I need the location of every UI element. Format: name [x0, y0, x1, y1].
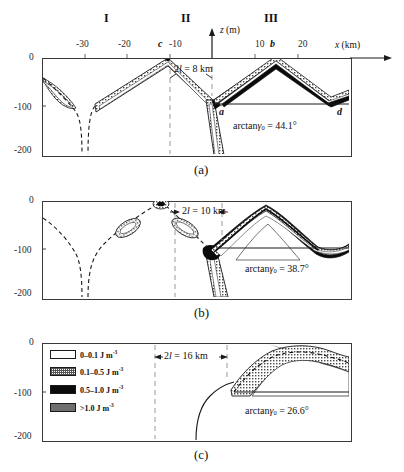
legend-exp-0: -3: [113, 349, 118, 355]
panel-c-angle-pre: arctan: [245, 405, 269, 416]
legend-label-1: 0.1–0.5 J m-3: [80, 366, 123, 377]
legend-item-1: 0.1–0.5 J m-3: [50, 366, 123, 377]
legend-swatch-hatched: [50, 367, 76, 376]
legend-unit-1: J m: [106, 368, 119, 377]
panel-c-length-rest: = 16 km: [172, 350, 208, 361]
figure-three-panel-energy-density: I II III z (m) x (km) -30 -20 -10 10 20 …: [0, 0, 404, 472]
legend-item-3: >1.0 J m-3: [50, 402, 114, 413]
legend-label-0: 0–0.1 J m-3: [80, 349, 117, 360]
legend-range-3: >1.0: [80, 404, 95, 413]
legend-label-3: >1.0 J m-3: [80, 402, 114, 413]
panel-c-angle-annotation: arctanγ0 = 26.6°: [245, 406, 309, 417]
legend-exp-2: -3: [119, 384, 124, 390]
legend-swatch-white: [50, 350, 76, 359]
legend-item-0: 0–0.1 J m-3: [50, 349, 117, 360]
legend-label-2: 0.5–1.0 J m-3: [80, 384, 123, 395]
legend-exp-3: -3: [109, 402, 114, 408]
panel-c-bands: [196, 344, 349, 440]
legend-range-2: 0.5–1.0: [80, 386, 104, 395]
legend-item-2: 0.5–1.0 J m-3: [50, 384, 123, 395]
panel-c-length-label: 2l = 16 km: [164, 351, 208, 361]
panel-c-angle-value: = 26.6°: [277, 405, 309, 416]
panel-c-caption: (c): [194, 448, 208, 461]
legend-range-0: 0–0.1: [80, 351, 98, 360]
legend-exp-1: -3: [119, 366, 124, 372]
legend-unit-2: J m: [106, 386, 119, 395]
legend-range-1: 0.1–0.5: [80, 368, 104, 377]
legend-swatch-gray: [50, 403, 76, 412]
legend-unit-0: J m: [100, 351, 113, 360]
legend-unit-3: J m: [97, 404, 110, 413]
legend-swatch-black: [50, 385, 76, 394]
